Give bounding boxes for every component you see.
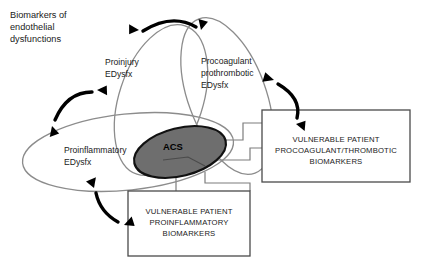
label-proinjury-line-1: Proinjury: [105, 58, 139, 68]
label-proinjury-line-2: EDysfx: [105, 70, 132, 80]
arrow-proinflammatory-to-box-head-upper: [85, 176, 96, 188]
label-proinflammatory-line-1: Proinflammatory: [64, 146, 127, 156]
arrow-caption-proinjury: [47, 83, 112, 137]
label-procoagulant-line-3: EDysfx: [201, 81, 228, 91]
caption-line-3: dysfunctions: [10, 34, 61, 45]
arrow-proinflammatory-to-box-shaft: [96, 193, 118, 222]
box-proinflammatory-line-1: VULNERABLE PATIENT: [128, 208, 250, 217]
box-proinflammatory-line-2: PROINFLAMMATORY: [128, 219, 250, 228]
label-procoagulant-line-1: Procoagulant: [201, 57, 252, 67]
connector-acs-to-proinflammatory-box-right: [205, 172, 250, 191]
figure-canvas: Biomarkers of endothelial dysfunctions P…: [0, 0, 424, 266]
arrow-caption-proinjury-head-lower: [47, 125, 59, 137]
arrow-caption-proinjury-shaft: [55, 92, 92, 120]
box-procoagulant-line-1: VULNERABLE PATIENT: [262, 136, 410, 145]
label-procoagulant-line-2: prothrombotic: [201, 69, 254, 79]
label-proinflammatory-line-2: EDysfx: [64, 158, 91, 168]
caption-line-2: endothelial: [10, 22, 54, 33]
label-acs: ACS: [163, 142, 183, 153]
box-procoagulant-line-3: BIOMARKERS: [262, 158, 410, 167]
arrow-proinjury-procoagulant-head-left: [124, 22, 139, 37]
caption-line-1: Biomarkers of: [10, 10, 67, 21]
box-proinflammatory-line-3: BIOMARKERS: [128, 230, 250, 239]
arrow-caption-proinjury-head-upper: [97, 83, 112, 98]
box-procoagulant-line-2: PROCOAGULANT/THROMBOTIC: [262, 147, 410, 156]
